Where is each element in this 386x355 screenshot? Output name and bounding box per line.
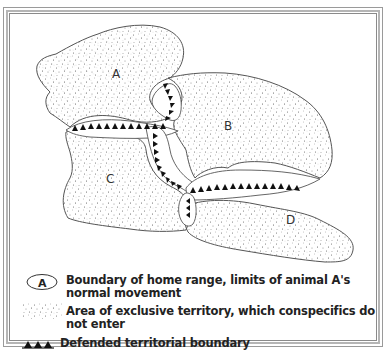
label-a: A: [112, 67, 121, 81]
oval-boundary-icon: A: [26, 274, 66, 288]
region-b: [168, 73, 332, 178]
legend-text-exclusive-territory: Area of exclusive territory, which consp…: [66, 305, 376, 331]
region-d: [184, 200, 353, 262]
label-c: C: [106, 172, 114, 186]
legend: A Boundary of home range, limits of anim…: [26, 274, 376, 351]
stipple-area-icon: [26, 305, 66, 319]
label-b: B: [224, 119, 232, 133]
triangle-boundary-icon: [26, 337, 60, 351]
legend-text-defended-boundary: Defended territorial boundary: [60, 337, 376, 350]
label-d: D: [286, 213, 295, 227]
legend-text-home-range: Boundary of home range, limits of animal…: [66, 274, 376, 300]
svg-text:A: A: [38, 277, 47, 290]
legend-item-defended-boundary: Defended territorial boundary: [26, 337, 376, 351]
legend-item-exclusive-territory: Area of exclusive territory, which consp…: [26, 305, 376, 331]
legend-item-home-range: A Boundary of home range, limits of anim…: [26, 274, 376, 300]
